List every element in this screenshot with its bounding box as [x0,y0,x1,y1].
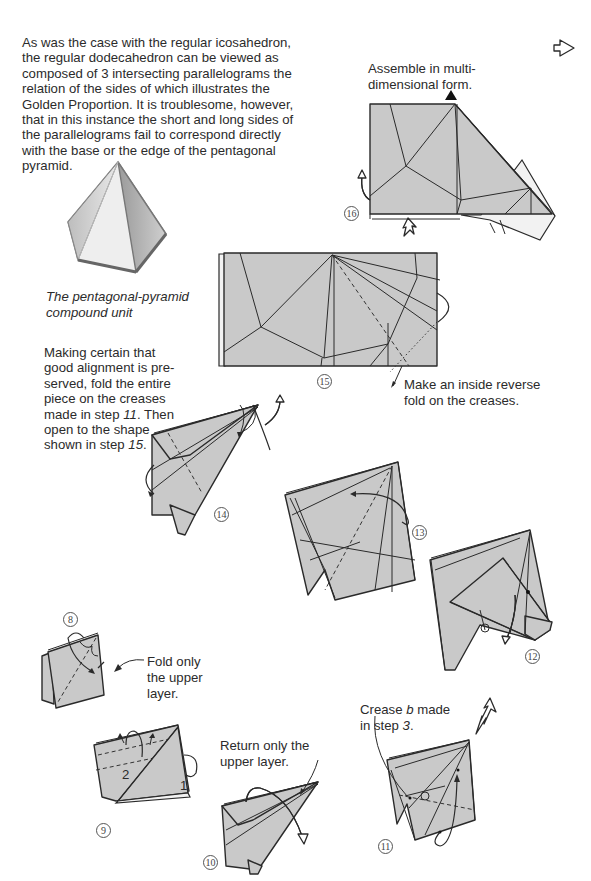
step8-diagram [38,630,108,710]
step15-note-line2: fold on the creases. [404,393,519,408]
step10-note-line2: upper layer. [220,754,289,769]
step15-note-line1: Make an inside reverse [404,377,540,392]
pentagonal-pyramid-illustration [58,160,173,280]
step16-note-line1: Assemble in multi- [368,61,476,76]
step11-diagram [385,740,495,850]
step14-note-line3: served, fold the entire [44,376,244,391]
step9-label-2: 2 [122,767,129,782]
step11-note-line2: in step 3. [360,718,414,733]
step8-number: 8 [63,612,78,627]
top-marker-icon [445,90,457,100]
step10-note-line1: Return only the [220,738,309,753]
next-page-arrow-icon [552,38,576,58]
pyramid-caption-line2: compound unit [46,305,133,320]
step8-note-line2: the upper [147,670,203,685]
step11-number: 11 [378,839,393,854]
step10-diagram [218,780,328,875]
step8-note-line1: Fold only [147,654,201,669]
push-up-arrow-icon [403,218,416,236]
step12-number: 12 [525,649,540,664]
step9-label-1: 1 [180,778,187,793]
step13-diagram [280,460,430,600]
step16-diagram [340,88,570,248]
step14-note-line1: Making certain that [44,345,244,360]
step15-number: 15 [317,374,332,389]
step15-diagram [215,248,465,378]
intro-paragraph: As was the case with the regular icosahe… [22,35,307,174]
step8-note-pointer [108,656,148,676]
step9-diagram [92,725,212,805]
step16-number: 16 [344,206,359,221]
step9-number: 9 [96,823,111,838]
step12-diagram [425,530,565,670]
step10-number: 10 [203,855,218,870]
step14-number: 14 [214,507,229,522]
step8-note-line3: layer. [147,686,179,701]
pyramid-caption-line1: The pentagonal-pyramid [46,289,189,304]
step11-page-arrow-icon [470,696,500,736]
fold-direction-arrow-icon [265,400,280,425]
step14-note-line2: good alignment is pre- [44,360,244,375]
step11-note-line1: Crease b made [360,702,450,717]
fold-behind-arrow-icon [437,293,449,322]
